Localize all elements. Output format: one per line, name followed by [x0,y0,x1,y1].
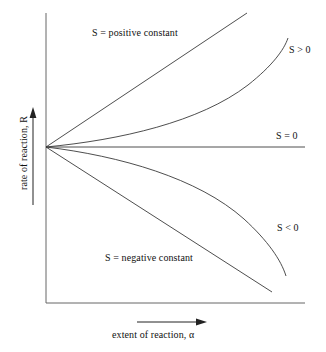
annotation-negative-constant: S = negative constant [105,253,193,263]
annotation-s-greater-than-zero: S > 0 [289,45,311,55]
annotation-s-equals-zero: S = 0 [276,131,298,141]
curve-s-greater-than-zero [46,38,288,147]
annotation-s-less-than-zero: S < 0 [277,223,299,233]
reaction-rate-figure: S = positive constant S > 0 S = 0 S < 0 … [0,0,326,352]
annotation-positive-constant: S = positive constant [92,28,178,38]
x-axis-label: extent of reaction, α [112,330,194,340]
x-axis-arrow-head [196,318,207,325]
y-axis-label: rate of reaction, R [19,98,29,208]
curve-negative-constant [46,147,272,292]
plot-canvas [0,0,326,352]
y-axis-arrow-head [30,107,37,118]
